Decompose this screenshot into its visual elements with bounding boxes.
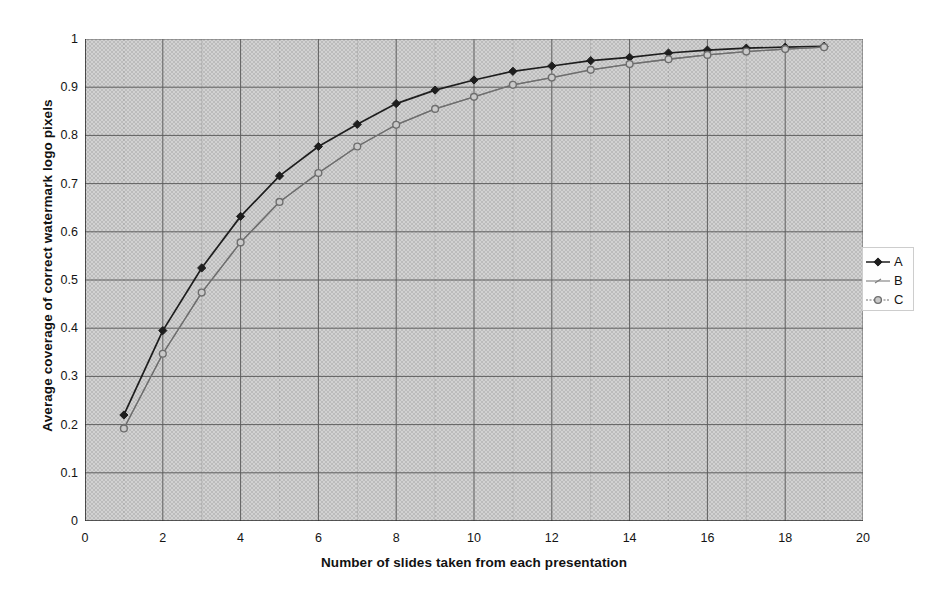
legend-item-c[interactable]: C: [865, 290, 911, 309]
legend-item-a[interactable]: A: [865, 252, 911, 271]
y-tick-label: 0.1: [38, 466, 78, 480]
x-tick-label: 2: [143, 531, 183, 545]
x-axis-title: Number of slides taken from each present…: [85, 555, 863, 570]
chart-legend: ABC: [862, 247, 914, 311]
legend-marker-filled-diamond-icon: [865, 255, 891, 269]
y-tick-label: 0.5: [38, 273, 78, 287]
y-tick-label: 0.9: [38, 80, 78, 94]
legend-label: B: [891, 274, 903, 287]
legend-label: A: [891, 255, 903, 268]
legend-marker-open-circle-icon: [865, 293, 891, 307]
plot-series-layer: [85, 39, 863, 521]
x-tick-label: 20: [843, 531, 883, 545]
plot-area: [85, 39, 863, 521]
x-tick-label: 18: [765, 531, 805, 545]
legend-item-b[interactable]: B: [865, 271, 911, 290]
chart-figure: Average coverage of correct watermark lo…: [0, 0, 948, 590]
y-tick-label: 0.6: [38, 225, 78, 239]
legend-label: C: [891, 293, 903, 306]
y-tick-label: 0: [38, 514, 78, 528]
y-tick-label: 0.2: [38, 418, 78, 432]
y-tick-label: 0.8: [38, 128, 78, 142]
x-tick-label: 16: [687, 531, 727, 545]
x-axis-tick-labels: 02468101214161820: [0, 531, 948, 553]
x-tick-label: 12: [532, 531, 572, 545]
x-tick-label: 8: [376, 531, 416, 545]
x-tick-label: 14: [610, 531, 650, 545]
y-tick-label: 0.3: [38, 369, 78, 383]
x-tick-label: 4: [221, 531, 261, 545]
legend-marker-small-dash-icon: [865, 274, 891, 288]
y-tick-label: 0.4: [38, 321, 78, 335]
y-tick-label: 0.7: [38, 177, 78, 191]
y-tick-label: 1: [38, 32, 78, 46]
y-axis-tick-labels: 00.10.20.30.40.50.60.70.80.91: [30, 0, 78, 590]
x-tick-label: 0: [65, 531, 105, 545]
x-tick-label: 10: [454, 531, 494, 545]
x-tick-label: 6: [298, 531, 338, 545]
